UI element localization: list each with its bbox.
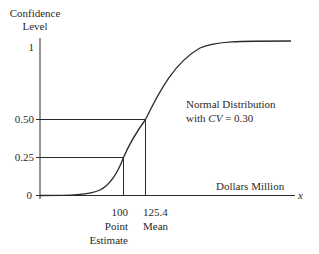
- y-axis-label-line1: Confidence: [2, 7, 68, 19]
- x-axis-label: Dollars Million: [216, 180, 284, 192]
- mean-value: 125.4: [143, 206, 168, 218]
- point-estimate-value: 100: [90, 206, 128, 218]
- annotation-prefix: with: [186, 112, 208, 124]
- y-tick-label-050: 0.50: [0, 113, 34, 125]
- y-tick-label-025: 0.25: [0, 151, 34, 163]
- annotation-suffix: = 0.30: [222, 112, 253, 124]
- point-estimate-label-line1: Point: [80, 220, 128, 232]
- y-tick-label-1: 1: [10, 41, 34, 53]
- y-tick-label-0: 0: [10, 189, 32, 201]
- annotation-line1: Normal Distribution: [186, 98, 276, 110]
- cdf-curve: [40, 41, 291, 196]
- annotation-line2: with CV = 0.30: [186, 112, 253, 124]
- point-estimate-label-line2: Estimate: [70, 234, 128, 246]
- y-axis-label-line2: Level: [2, 20, 68, 32]
- mean-label: Mean: [143, 220, 168, 232]
- cdf-chart: Confidence Level 1 0.50 0.25 0 Dollars M…: [0, 0, 319, 254]
- x-axis-symbol: x: [298, 189, 303, 201]
- annotation-cv: CV: [208, 112, 222, 124]
